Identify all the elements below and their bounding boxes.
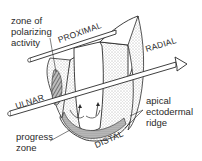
radial-arrowhead-icon [175, 57, 187, 71]
zpa-label-line3: activity [11, 38, 40, 48]
zpa-label-line2: polarizing [11, 27, 52, 37]
aer-label-line1: apical [146, 96, 171, 106]
proximal-axis-end [28, 58, 30, 62]
aer-label-line3: ridge [146, 118, 167, 128]
progress-zone-leader-line [50, 130, 70, 141]
progress-zone-label-line2: zone [16, 143, 37, 153]
ulnar-axis-end [8, 111, 10, 116]
progress-zone-label-line1: progress [16, 132, 53, 142]
zpa-label-line1: zone of [11, 16, 42, 26]
aer-label-line2: ectodermal [146, 107, 193, 117]
